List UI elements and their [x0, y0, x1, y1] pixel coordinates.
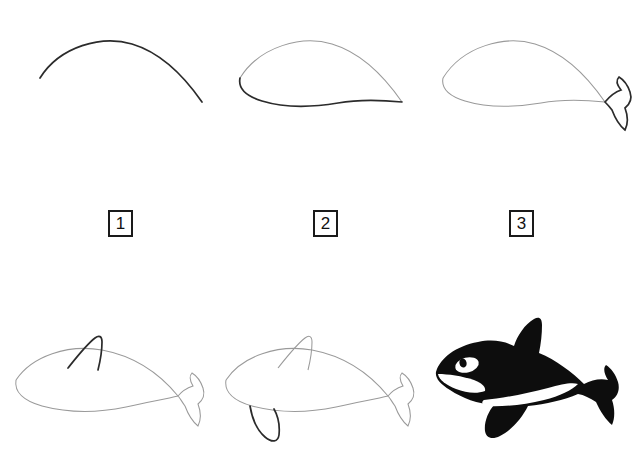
- belly-curve-stroke: [240, 78, 402, 107]
- drawing-step-3: [425, 6, 635, 156]
- drawing-step-1: [2, 6, 212, 156]
- drawing-step-4: [2, 312, 212, 462]
- step-number-1: 1: [108, 210, 133, 237]
- body-outline-stroke: [16, 348, 178, 396]
- back-arc-stroke: [240, 41, 402, 102]
- dorsal-fin-stroke: [278, 336, 312, 370]
- drawing-step-2: [218, 6, 428, 156]
- step-number-2: 2: [313, 210, 338, 237]
- body-outline-stroke: [443, 41, 605, 102]
- tutorial-sheet: 1 2 3: [0, 0, 640, 467]
- tail-fluke-stroke: [388, 373, 414, 426]
- drawing-step-6-final: [422, 312, 632, 462]
- drawing-step-5: [212, 312, 422, 462]
- tail-fluke-stroke: [605, 77, 631, 130]
- belly-outline-stroke: [443, 78, 605, 107]
- pectoral-flipper-stroke: [250, 406, 279, 441]
- body-outline-stroke: [226, 348, 388, 396]
- dorsal-fin-stroke: [68, 336, 102, 370]
- back-arc-stroke: [40, 41, 202, 102]
- step-number-3: 3: [509, 210, 534, 237]
- tail-fluke-stroke: [178, 373, 204, 426]
- step-label-row: 1 2 3: [0, 210, 640, 240]
- belly-outline-stroke: [16, 380, 178, 411]
